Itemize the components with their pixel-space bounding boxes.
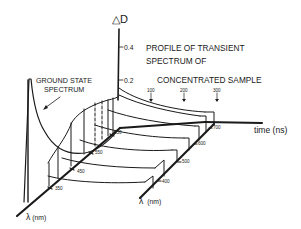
time-axis-label: time (ns) [254,125,288,135]
title-line-3: CONCENTRATED SAMPLE [157,75,262,85]
wavelength-right-tick-700: 700 [213,125,221,130]
time-tick-300: 300 [213,88,221,93]
ground-state-label-line-1: GROUND STATE [36,76,92,85]
wavelength-right-tick-600: 600 [198,141,206,146]
ground-state-label-line-2: SPECTRUM [44,85,84,94]
ground-state-arrow [45,97,60,108]
wavelength-front-label: λ(nm) [26,212,46,222]
transient-spectrum-diagram: △D 0.4 0.2 PROFILE OF TRANSIENT SPECTRUM… [0,0,301,229]
wavelength-right-tick-400: 400 [162,179,170,184]
delta-d-label: △D [112,13,128,25]
time-tick-100: 100 [147,88,155,93]
delta-d-tick-label-04: 0.4 [124,44,134,51]
wavelength-front-tick-550: 550 [95,150,103,155]
title-line-1: PROFILE OF TRANSIENT [146,43,245,53]
title-line-2: SPECTRUM OF [146,56,206,66]
time-tick-200: 200 [180,88,188,93]
delta-d-tick-label-02: 0.2 [124,77,134,84]
delta-d-axis [118,29,119,100]
wavelength-right-tick-500: 500 [182,159,190,164]
wavelength-front-tick-450: 450 [77,169,85,174]
wavelength-front-tick-650: 650 [114,130,122,135]
wavelength-axis-front [17,128,120,216]
wavelength-front-tick-350: 350 [55,186,63,191]
wavelength-right-label: λ(nm) [139,196,161,206]
